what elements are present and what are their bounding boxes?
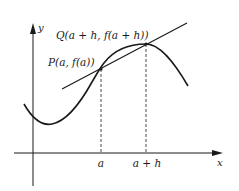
point-q bbox=[144, 42, 147, 45]
point-p bbox=[99, 67, 102, 70]
tick-label-a: a bbox=[98, 157, 104, 169]
tick-label-a-plus-h: a + h bbox=[133, 157, 162, 169]
point-p-label: P(a, f(a)) bbox=[47, 56, 95, 68]
x-axis-label: x bbox=[217, 157, 223, 168]
y-axis bbox=[30, 23, 36, 186]
secant-line-diagram: y x Q(a + h, f(a + h)) P(a, f(a)) a a + … bbox=[0, 0, 239, 191]
point-q-label: Q(a + h, f(a + h)) bbox=[56, 29, 149, 42]
x-axis bbox=[14, 150, 223, 156]
x-axis-arrow-icon bbox=[212, 150, 223, 156]
y-axis-label: y bbox=[37, 22, 44, 33]
y-axis-arrow-icon bbox=[30, 23, 36, 34]
